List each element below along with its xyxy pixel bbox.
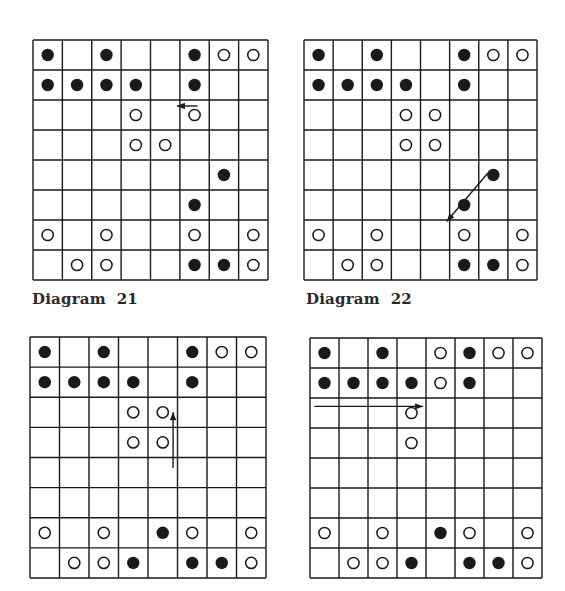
white-piece (130, 139, 141, 150)
grid-lines (310, 338, 542, 578)
black-piece (98, 346, 110, 358)
black-piece (318, 377, 330, 389)
white-piece (128, 407, 139, 418)
black-piece (312, 79, 324, 91)
white-piece (130, 109, 141, 120)
white-piece (218, 49, 229, 60)
arrow-head (415, 403, 423, 409)
black-piece (71, 79, 83, 91)
black-piece (458, 259, 470, 271)
white-piece (493, 347, 504, 358)
black-piece (376, 347, 388, 359)
white-piece (101, 259, 112, 270)
white-piece (377, 527, 388, 538)
black-piece (218, 259, 230, 271)
black-piece (405, 557, 417, 569)
move-arrow (314, 403, 423, 409)
black-piece (347, 377, 359, 389)
arrow-shaft (447, 174, 488, 222)
grid-lines (33, 40, 268, 280)
black-piece (68, 376, 80, 388)
white-piece (71, 259, 82, 270)
black-piece (463, 557, 475, 569)
white-piece (69, 557, 80, 568)
black-piece (188, 199, 200, 211)
black-piece (186, 557, 198, 569)
black-piece (371, 49, 383, 61)
white-piece (522, 347, 533, 358)
white-piece (248, 49, 259, 60)
black-piece (100, 79, 112, 91)
white-piece (248, 229, 259, 240)
white-piece (98, 527, 109, 538)
board-svg (33, 40, 268, 280)
diagram-23-board (30, 337, 266, 578)
white-piece (377, 557, 388, 568)
black-piece (186, 346, 198, 358)
white-piece (400, 109, 411, 120)
black-piece (186, 376, 198, 388)
black-piece (463, 377, 475, 389)
arrow-head (170, 412, 176, 420)
white-piece (187, 527, 198, 538)
black-piece (188, 79, 200, 91)
black-piece (458, 49, 470, 61)
white-piece (157, 437, 168, 448)
white-piece (246, 557, 257, 568)
white-piece (216, 346, 227, 357)
black-piece (188, 259, 200, 271)
white-piece (160, 139, 171, 150)
move-arrow (170, 412, 176, 468)
white-piece (517, 49, 528, 60)
black-piece (157, 527, 169, 539)
white-piece (128, 437, 139, 448)
white-piece (246, 527, 257, 538)
black-piece (39, 376, 51, 388)
white-piece (371, 229, 382, 240)
black-piece (218, 169, 230, 181)
black-piece (127, 376, 139, 388)
white-piece (435, 347, 446, 358)
diagram-21-board (33, 40, 268, 280)
black-piece (376, 377, 388, 389)
white-piece (464, 527, 475, 538)
black-piece (463, 347, 475, 359)
black-piece (127, 557, 139, 569)
white-piece (406, 437, 417, 448)
black-piece (100, 49, 112, 61)
white-piece (42, 229, 53, 240)
white-piece (157, 407, 168, 418)
black-piece (371, 79, 383, 91)
white-piece (248, 259, 259, 270)
white-piece (101, 229, 112, 240)
white-piece (517, 259, 528, 270)
black-piece (492, 557, 504, 569)
move-arrow (447, 174, 488, 222)
white-piece (313, 229, 324, 240)
black-piece (400, 79, 412, 91)
black-piece (98, 376, 110, 388)
white-piece (189, 109, 200, 120)
white-piece (517, 229, 528, 240)
white-piece (98, 557, 109, 568)
black-piece (458, 79, 470, 91)
white-piece (429, 139, 440, 150)
black-piece (318, 347, 330, 359)
white-piece (371, 259, 382, 270)
white-piece (189, 229, 200, 240)
diagram-22-board (304, 40, 537, 280)
white-piece (429, 109, 440, 120)
white-piece (522, 527, 533, 538)
black-piece (487, 169, 499, 181)
board-svg (310, 338, 542, 578)
black-piece (39, 346, 51, 358)
white-piece (246, 346, 257, 357)
white-piece (488, 49, 499, 60)
grid-lines (30, 337, 266, 578)
white-piece (39, 527, 50, 538)
black-piece (487, 259, 499, 271)
black-piece (130, 79, 142, 91)
arrow-head (177, 103, 185, 109)
black-piece (188, 49, 200, 61)
black-piece (405, 377, 417, 389)
